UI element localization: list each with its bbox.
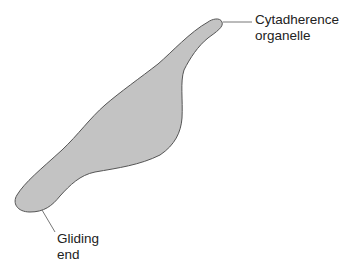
label-line: end	[57, 247, 99, 263]
gliding-end-leader-line	[42, 210, 55, 232]
cytadherence-organelle-label: Cytadherence organelle	[255, 12, 339, 44]
label-line: organelle	[255, 28, 339, 44]
mycoplasma-cell-body	[15, 19, 222, 212]
gliding-end-label: Gliding end	[57, 231, 99, 263]
label-line: Gliding	[57, 231, 99, 247]
label-line: Cytadherence	[255, 12, 339, 28]
